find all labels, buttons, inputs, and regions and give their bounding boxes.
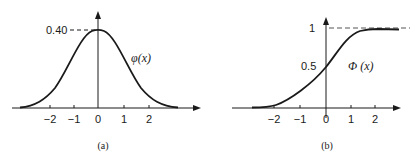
caption-a: (a) <box>97 140 108 152</box>
y-tick-label-05: 0.5 <box>301 60 316 72</box>
x-tick-label: 2 <box>146 113 152 125</box>
density-curve <box>20 30 178 108</box>
x-tick-label: 2 <box>372 113 378 125</box>
x-tick-label: 0 <box>323 113 329 125</box>
panel-b-normal-cdf: 1 0.5 Φ (x) −2 −1 0 1 2 (b) <box>232 17 410 152</box>
x-tick-label: 0 <box>95 113 101 125</box>
figure: 0.40 φ(x) −2 −1 0 1 2 (a) 1 0.5 Φ (x) −2… <box>0 0 413 166</box>
caption-b: (b) <box>321 140 333 152</box>
function-label-Phi: Φ (x) <box>348 59 373 73</box>
x-tick-label: −1 <box>294 113 307 125</box>
y-tick-label-1: 1 <box>309 22 315 34</box>
y-axis-arrow-icon <box>323 17 329 25</box>
y-tick-label-040: 0.40 <box>46 24 67 36</box>
x-tick-label: 1 <box>121 113 127 125</box>
x-tick-label: 1 <box>348 113 354 125</box>
x-tick-label: −1 <box>68 113 81 125</box>
panel-a-normal-density: 0.40 φ(x) −2 −1 0 1 2 (a) <box>12 11 201 152</box>
x-tick-label: −2 <box>268 113 281 125</box>
function-label-phi: φ(x) <box>131 51 151 65</box>
y-axis-arrow-icon <box>95 11 101 19</box>
x-axis-arrow-icon <box>193 105 201 111</box>
x-axis-arrow-icon <box>393 105 401 111</box>
x-tick-label: −2 <box>44 113 57 125</box>
